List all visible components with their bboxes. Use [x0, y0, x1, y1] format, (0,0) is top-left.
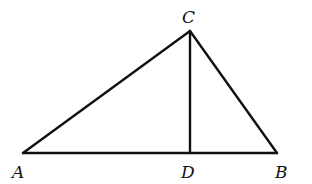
label-point-b: B: [274, 162, 288, 182]
label-point-c: C: [182, 7, 195, 27]
triangle-diagram: C A D B: [0, 0, 312, 184]
segment-cb: [190, 31, 277, 153]
segment-ac: [23, 31, 190, 153]
label-point-d: D: [180, 162, 195, 182]
label-point-a: A: [10, 162, 24, 182]
